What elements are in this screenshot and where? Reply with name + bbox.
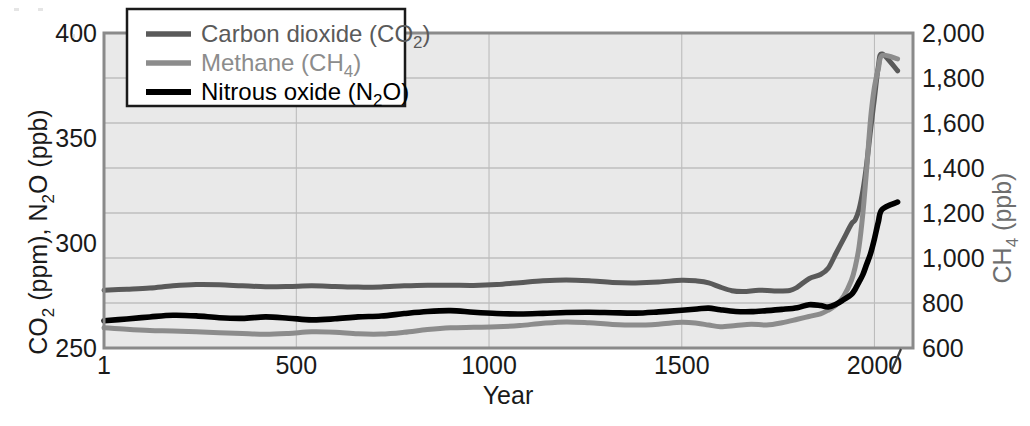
- right-tick-2000: 2,000: [922, 19, 985, 47]
- legend: Carbon dioxide (CO2) Methane (CH4) Nitro…: [127, 9, 431, 110]
- left-axis-tick-labels: 250300350400: [55, 19, 97, 362]
- greenhouse-gas-chart: 250300350400 6008001,0001,2001,4001,6001…: [0, 0, 1030, 426]
- x-tick-1500: 1500: [654, 351, 710, 379]
- left-tick-350: 350: [55, 124, 97, 152]
- left-axis-title: CO2 (ppm), N2O (ppb): [24, 109, 58, 354]
- x-tick-500: 500: [275, 351, 317, 379]
- right-tick-800: 800: [922, 289, 964, 317]
- right-tick-1800: 1,800: [922, 64, 985, 92]
- right-tick-600: 600: [922, 334, 964, 362]
- right-tick-1200: 1,200: [922, 199, 985, 227]
- left-tick-400: 400: [55, 19, 97, 47]
- chart-canvas: 250300350400 6008001,0001,2001,4001,6001…: [0, 0, 1030, 426]
- right-tick-1000: 1,000: [922, 244, 985, 272]
- right-tick-1600: 1,600: [922, 109, 985, 137]
- right-axis-tick-labels: 6008001,0001,2001,4001,6001,8002,000: [922, 19, 985, 362]
- x-tick-1: 1: [97, 351, 111, 379]
- scan-artifact: [14, 8, 19, 11]
- scan-artifact: [72, 34, 75, 38]
- x-axis-tick-labels: 1500100015002000: [97, 351, 902, 379]
- x-tick-1000: 1000: [461, 351, 517, 379]
- left-tick-300: 300: [55, 229, 97, 257]
- right-tick-1400: 1,400: [922, 154, 985, 182]
- scan-artifact: [38, 8, 43, 11]
- right-axis-title: CH4 (ppb): [988, 173, 1022, 284]
- x-axis-title: Year: [483, 381, 534, 409]
- left-tick-250: 250: [55, 334, 97, 362]
